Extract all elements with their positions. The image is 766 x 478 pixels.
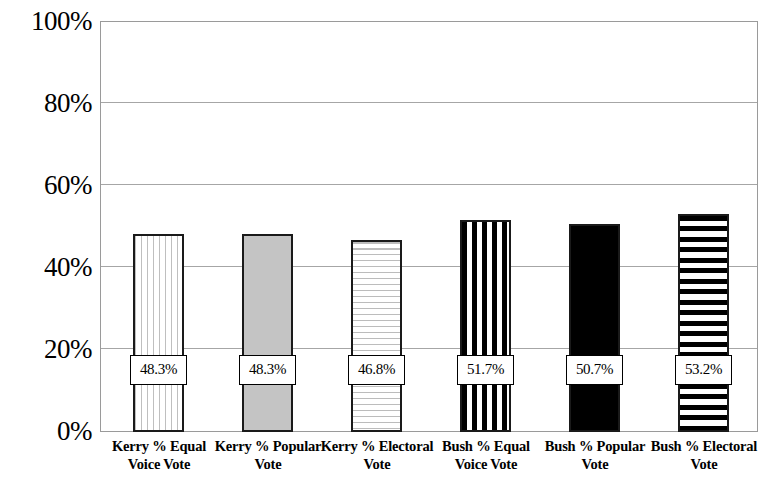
y-tick-label-60: 60% <box>0 172 92 199</box>
y-axis: 100% 80% 60% 40% 20% 0% <box>0 0 92 478</box>
x-axis: Kerry % Equal Voice Vote Kerry % Popular… <box>100 437 758 478</box>
bars-layer: 48.3% 48.3% 46.8% 51.7% 50.7% 53.2% <box>100 21 758 432</box>
x-label-line2: Voice Vote <box>98 455 220 473</box>
x-label-kerry-equal-voice-vote: Kerry % Equal Voice Vote <box>98 437 220 473</box>
y-tick-label-100: 100% <box>0 8 92 35</box>
x-label-bush-equal-voice-vote: Bush % Equal Voice Vote <box>425 437 547 473</box>
y-tick-label-0: 0% <box>0 418 92 445</box>
bar-kerry-electoral-vote[interactable] <box>351 240 402 432</box>
bar-chart: 100% 80% 60% 40% 20% 0% 48.3% 48.3% 46.8… <box>0 0 766 478</box>
data-label-bush-electoral-vote: 53.2% <box>675 355 732 385</box>
y-tick-label-20: 20% <box>0 336 92 363</box>
x-label-line1: Kerry % Equal <box>98 437 220 455</box>
bar-bush-equal-voice-vote[interactable] <box>460 220 511 432</box>
bar-kerry-equal-voice-vote[interactable] <box>133 234 184 432</box>
data-label-kerry-equal-voice-vote: 48.3% <box>130 355 187 385</box>
bar-bush-electoral-vote[interactable] <box>678 214 729 432</box>
x-label-line1: Bush % Equal <box>425 437 547 455</box>
x-label-line1: Bush % Popular <box>534 437 656 455</box>
x-label-line2: Vote <box>316 455 438 473</box>
y-tick-label-40: 40% <box>0 254 92 281</box>
bar-kerry-popular-vote[interactable] <box>242 234 293 432</box>
x-label-line1: Kerry % Electoral <box>316 437 438 455</box>
x-label-line2: Voice Vote <box>425 455 547 473</box>
data-label-bush-popular-vote: 50.7% <box>566 355 623 385</box>
x-label-line2: Vote <box>643 455 765 473</box>
x-label-line2: Vote <box>207 455 329 473</box>
bar-bush-popular-vote[interactable] <box>569 224 620 432</box>
x-label-kerry-popular-vote: Kerry % Popular Vote <box>207 437 329 473</box>
y-tick-label-80: 80% <box>0 90 92 117</box>
x-label-bush-popular-vote: Bush % Popular Vote <box>534 437 656 473</box>
x-label-line1: Kerry % Popular <box>207 437 329 455</box>
x-label-kerry-electoral-vote: Kerry % Electoral Vote <box>316 437 438 473</box>
data-label-bush-equal-voice-vote: 51.7% <box>457 355 514 385</box>
data-label-kerry-popular-vote: 48.3% <box>239 355 296 385</box>
x-label-bush-electoral-vote: Bush % Electoral Vote <box>643 437 765 473</box>
data-label-kerry-electoral-vote: 46.8% <box>348 355 405 385</box>
x-label-line2: Vote <box>534 455 656 473</box>
x-label-line1: Bush % Electoral <box>643 437 765 455</box>
